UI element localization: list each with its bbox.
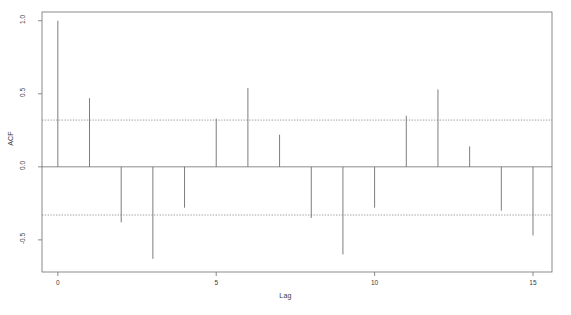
plot-frame — [42, 12, 552, 272]
y-axis-title: ACF — [7, 119, 14, 159]
acf-plot-canvas — [0, 0, 571, 315]
x-tick-label: 0 — [43, 279, 73, 286]
y-tick-label: -0.5 — [19, 225, 26, 251]
y-tick-label: 0.0 — [19, 152, 26, 178]
acf-plot: ACF Lag -0.50.00.51.0 051015 — [0, 0, 571, 315]
y-tick-label: 1.0 — [19, 6, 26, 32]
x-tick-label: 10 — [360, 279, 390, 286]
x-axis-title: Lag — [0, 292, 571, 299]
x-tick-label: 15 — [518, 279, 548, 286]
x-tick-label: 5 — [201, 279, 231, 286]
y-tick-label: 0.5 — [19, 79, 26, 105]
